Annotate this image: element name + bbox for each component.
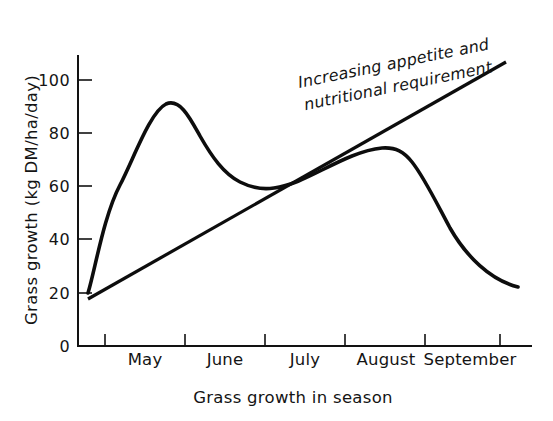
y-tick-label-100: 100 [38, 71, 70, 90]
y-axis-title: Grass growth (kg DM/ha/day) [22, 75, 41, 325]
y-axis-ticks [78, 80, 92, 293]
y-tick-label-80: 80 [49, 124, 70, 143]
x-label-june: June [206, 350, 244, 369]
x-axis-category-labels: May June July August September [128, 350, 517, 369]
x-label-july: July [289, 350, 321, 369]
trend-annotation: Increasing appetite and nutritional requ… [296, 34, 496, 114]
x-axis-ticks [105, 334, 500, 346]
grass-growth-line-chart: 100 80 60 40 20 0 May June July August S… [0, 0, 553, 421]
x-label-september: September [423, 350, 516, 369]
grass-growth-curve [88, 103, 518, 293]
y-tick-label-40: 40 [49, 230, 70, 249]
y-tick-label-0: 0 [59, 337, 70, 356]
chart-figure: 100 80 60 40 20 0 May June July August S… [0, 0, 553, 421]
y-tick-label-60: 60 [49, 177, 70, 196]
x-label-may: May [128, 350, 163, 369]
x-axis-title: Grass growth in season [193, 388, 393, 407]
y-tick-label-20: 20 [49, 284, 70, 303]
x-label-august: August [357, 350, 416, 369]
y-axis-tick-labels: 100 80 60 40 20 0 [38, 71, 70, 356]
